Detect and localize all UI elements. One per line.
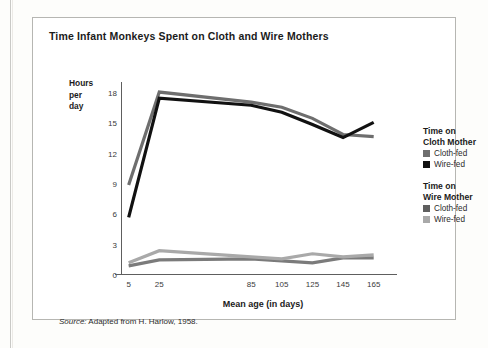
legend-swatch-icon [423,150,430,157]
y-tick-15: 15 [87,119,117,128]
legend-item[interactable]: Wire-fed [423,160,488,169]
x-tick-165: 165 [362,280,386,289]
legend-item-label: Wire-fed [434,215,465,224]
y-tick-3: 3 [87,241,117,250]
source-label: Source: [59,317,87,326]
chart-legend: Time onCloth MotherCloth-fedWire-fedTime… [423,126,488,236]
legend-swatch-icon [423,216,430,223]
x-tick-5: 5 [117,280,141,289]
y-tick-18: 18 [87,89,117,98]
source-text: Adapted from H. Harlow, 1958. [88,317,197,326]
legend-item[interactable]: Wire-fed [423,215,488,224]
y-tick-12: 12 [87,150,117,159]
x-axis-title: Mean age (in days) [183,299,343,309]
legend-item[interactable]: Cloth-fed [423,149,488,158]
legend-item-label: Wire-fed [434,160,465,169]
legend-group: Time onCloth MotherCloth-fedWire-fed [423,126,488,169]
page-edge-rule-secondary [12,0,13,348]
x-tick-145: 145 [331,280,355,289]
y-axis-tick-labels: 0369121518 [83,18,117,348]
figure-card: Time Infant Monkeys Spent on Cloth and W… [32,17,456,320]
x-tick-125: 125 [300,280,324,289]
legend-group-title: Cloth Mother [423,137,488,148]
x-tick-105: 105 [270,280,294,289]
legend-item[interactable]: Cloth-fed [423,204,488,213]
y-tick-0: 0 [87,271,117,280]
legend-swatch-icon [423,205,430,212]
plot-area [121,84,389,276]
series-line [129,98,374,217]
legend-group-title: Wire Mother [423,192,488,203]
source-note: Source: Adapted from H. Harlow, 1958. [59,317,198,326]
page-edge-rule [10,0,11,348]
legend-group: Time onWire MotherCloth-fedWire-fed [423,181,488,224]
series-line [129,258,374,266]
legend-group-title: Time on [423,181,488,192]
legend-group-title: Time on [423,126,488,137]
x-tick-25: 25 [147,280,171,289]
legend-item-label: Cloth-fed [434,204,467,213]
legend-item-label: Cloth-fed [434,149,467,158]
x-tick-85: 85 [239,280,263,289]
legend-swatch-icon [423,161,430,168]
y-tick-9: 9 [87,180,117,189]
y-tick-6: 6 [87,210,117,219]
